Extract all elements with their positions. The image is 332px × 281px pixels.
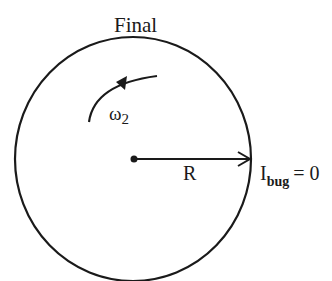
diagram-canvas: Final ω2 R Ibug= 0 [0,0,332,281]
omega-label: ω2 [109,103,129,127]
title-label: Final [114,13,157,37]
radius-label: R [183,162,197,184]
rotation-arrowhead-icon [116,76,127,90]
moment-label: Ibug= 0 [260,162,320,189]
